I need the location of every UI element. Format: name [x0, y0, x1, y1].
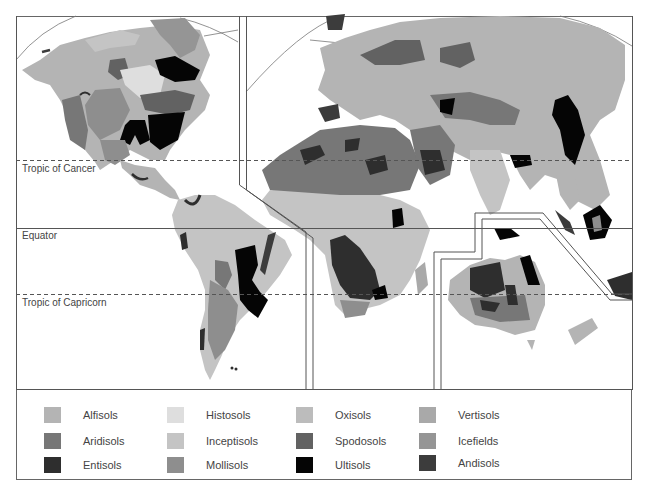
legend-item-oxisols: Oxisols — [296, 406, 371, 424]
legend-item-inceptisols: Inceptisols — [167, 432, 258, 450]
legend-label: Oxisols — [335, 409, 371, 421]
legend-item-mollisols: Mollisols — [167, 456, 248, 474]
tropic-of-capricorn-label: Tropic of Capricorn — [22, 297, 107, 308]
legend-label: Ultisols — [335, 459, 370, 471]
swatch-histosols — [167, 407, 184, 423]
legend-label: Inceptisols — [206, 435, 258, 447]
legend-label: Histosols — [206, 409, 251, 421]
legend-item-alfisols: Alfisols — [44, 406, 118, 424]
legend-item-entisols: Entisols — [44, 456, 122, 474]
swatch-oxisols — [296, 407, 313, 423]
swatch-mollisols — [167, 457, 184, 473]
legend-label: Andisols — [458, 457, 500, 469]
legend-item-vertisols: Vertisols — [419, 406, 500, 424]
legend-item-spodosols: Spodosols — [296, 432, 386, 450]
australia — [448, 228, 632, 350]
south-america — [172, 195, 292, 380]
swatch-entisols — [44, 457, 61, 473]
legend-label: Alfisols — [83, 409, 118, 421]
legend: Alfisols Aridisols Entisols Histosols In… — [16, 390, 632, 480]
swatch-aridisols — [44, 433, 61, 449]
legend-item-icefields: Icefields — [419, 432, 498, 450]
eurasia-africa — [262, 14, 625, 318]
swatch-inceptisols — [167, 433, 184, 449]
legend-label: Vertisols — [458, 409, 500, 421]
legend-item-histosols: Histosols — [167, 406, 251, 424]
graticule-line — [204, 30, 238, 36]
legend-label: Aridisols — [83, 435, 125, 447]
legend-item-andisols: Andisols — [419, 454, 500, 472]
swatch-alfisols — [44, 407, 61, 423]
swatch-spodosols — [296, 433, 313, 449]
swatch-vertisols — [419, 407, 436, 423]
swatch-icefields — [419, 433, 436, 449]
swatch-ultisols — [296, 457, 313, 473]
legend-item-ultisols: Ultisols — [296, 456, 370, 474]
legend-label: Entisols — [83, 459, 122, 471]
swatch-andisols — [419, 455, 436, 471]
legend-label: Spodosols — [335, 435, 386, 447]
equator-label: Equator — [22, 230, 57, 241]
legend-label: Mollisols — [206, 459, 248, 471]
tropic-of-cancer-label: Tropic of Cancer — [22, 163, 96, 174]
legend-label: Icefields — [458, 435, 498, 447]
legend-item-aridisols: Aridisols — [44, 432, 125, 450]
